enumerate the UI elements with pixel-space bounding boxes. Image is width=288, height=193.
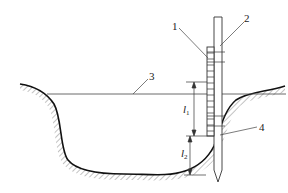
leader-3 (133, 79, 148, 94)
diagram-canvas: l1 l2 1 2 3 4 (0, 0, 288, 193)
leader-2 (220, 22, 244, 46)
ground-hatching (20, 84, 285, 180)
l1-label: l1 (183, 103, 190, 117)
callout-4-ground: 4 (259, 121, 265, 133)
l2-label: l2 (181, 147, 188, 161)
rod (214, 17, 222, 182)
callout-2-rod: 2 (244, 12, 250, 24)
leader-1 (179, 28, 208, 58)
callout-3-water-surface: 3 (149, 70, 155, 82)
callout-1-ruler: 1 (172, 20, 178, 32)
